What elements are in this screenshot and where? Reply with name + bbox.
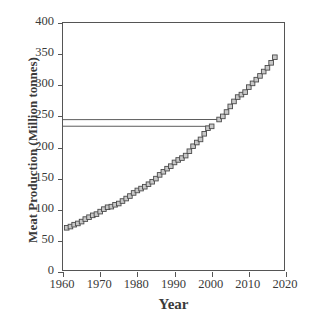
y-axis-title: Meat Production (Million tonnes) xyxy=(22,5,44,295)
y-axis-tick xyxy=(58,54,63,55)
y-axis-tick xyxy=(58,116,63,117)
x-tick-label: 1960 xyxy=(39,278,85,291)
x-axis-tick xyxy=(212,272,213,277)
data-point-marker xyxy=(273,55,278,60)
x-axis-tick xyxy=(175,272,176,277)
data-point-marker xyxy=(265,66,270,71)
meat-production-chart: Meat Production (Million tonnes) 0501001… xyxy=(0,0,314,324)
y-axis-tick xyxy=(58,23,63,24)
x-tick-label: 1990 xyxy=(151,278,197,291)
data-series-svg xyxy=(63,23,286,272)
x-axis-tick xyxy=(249,272,250,277)
data-point-marker xyxy=(187,149,192,154)
data-point-marker xyxy=(269,61,274,66)
data-point-marker xyxy=(198,137,203,142)
plot-area xyxy=(62,22,285,271)
x-tick-label: 2000 xyxy=(188,278,234,291)
x-tick-label: 2020 xyxy=(262,278,308,291)
x-tick-label: 1970 xyxy=(76,278,122,291)
x-axis-title: Year xyxy=(62,296,285,313)
x-tick-label: 2010 xyxy=(225,278,271,291)
data-point-marker xyxy=(209,124,214,129)
y-axis-tick xyxy=(58,179,63,180)
data-point-marker xyxy=(243,90,248,95)
y-axis-tick xyxy=(58,210,63,211)
series-line xyxy=(63,57,275,228)
data-point-marker xyxy=(224,110,229,115)
x-tick-label: 1980 xyxy=(113,278,159,291)
y-axis-tick xyxy=(58,85,63,86)
data-point-marker xyxy=(258,74,263,79)
y-axis-tick xyxy=(58,241,63,242)
data-point-marker xyxy=(202,132,207,137)
x-axis-tick xyxy=(137,272,138,277)
x-axis-tick xyxy=(286,272,287,277)
x-axis-tick xyxy=(63,272,64,277)
y-axis-tick xyxy=(58,148,63,149)
data-point-marker xyxy=(228,104,233,109)
x-axis-tick xyxy=(100,272,101,277)
